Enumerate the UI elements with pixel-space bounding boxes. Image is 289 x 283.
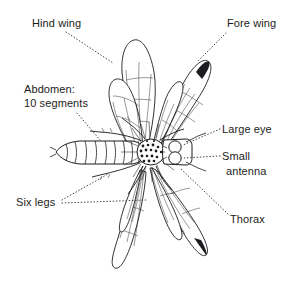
- label-thorax: Thorax: [230, 213, 265, 226]
- leader-hind-wing: [66, 32, 113, 63]
- label-six-legs: Six legs: [16, 196, 55, 209]
- antenna-lower: [186, 162, 206, 171]
- label-large-eye: Large eye: [222, 123, 272, 136]
- abdomen-cerci: [50, 147, 56, 157]
- label-fore-wing: Fore wing: [227, 17, 276, 30]
- label-hind-wing: Hind wing: [32, 17, 81, 30]
- leader-six-legs-upper: [62, 174, 108, 200]
- large-eye-lower: [169, 152, 181, 164]
- leg-3: [92, 163, 140, 177]
- label-abdomen-line1: Abdomen:: [24, 83, 75, 96]
- abdomen-group: [50, 141, 144, 164]
- leader-thorax: [180, 168, 228, 214]
- dragonfly-diagram-page: Hind wing Fore wing Abdomen: 10 segments…: [0, 0, 289, 283]
- antenna-upper: [186, 133, 206, 142]
- leader-abdomen: [77, 113, 100, 140]
- abdomen-body: [56, 141, 144, 164]
- label-small-antenna-line2: antenna: [226, 165, 266, 178]
- label-small-antenna-line1: Small: [222, 150, 250, 163]
- label-abdomen-line2: 10 segments: [24, 97, 88, 110]
- dragonfly-illustration: [0, 0, 289, 283]
- leader-fore-wing: [197, 33, 226, 62]
